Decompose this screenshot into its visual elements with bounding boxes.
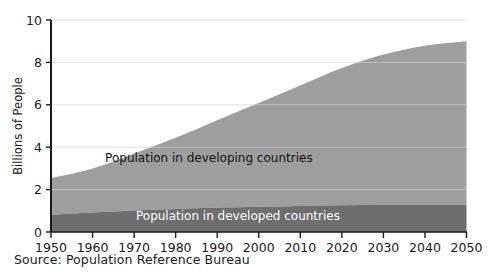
chart-canvas: 0246810 19501960197019801990200020102020… — [0, 0, 490, 274]
x-tick-label: 2010 — [284, 240, 316, 255]
x-axis-ticks — [51, 232, 467, 238]
x-tick-label: 2040 — [409, 240, 441, 255]
series-label-developed: Population in developed countries — [136, 209, 340, 223]
series-label-developing: Population in developing countries — [105, 151, 313, 165]
y-axis-tick-labels: 0246810 — [26, 13, 42, 240]
y-tick-label: 2 — [34, 182, 42, 197]
x-tick-label: 2020 — [326, 240, 358, 255]
y-tick-label: 4 — [34, 140, 42, 155]
y-tick-label: 0 — [34, 225, 42, 240]
x-tick-label: 2050 — [451, 240, 483, 255]
y-tick-label: 6 — [34, 97, 42, 112]
y-tick-label: 8 — [34, 55, 42, 70]
y-axis-title: Billions of People — [11, 77, 25, 175]
x-tick-label: 2030 — [367, 240, 399, 255]
source-caption: Source: Population Reference Bureau — [14, 252, 250, 267]
population-area-chart: 0246810 19501960197019801990200020102020… — [0, 0, 490, 274]
y-tick-label: 10 — [26, 13, 42, 28]
